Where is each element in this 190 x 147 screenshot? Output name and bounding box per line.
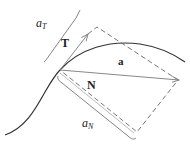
normal-component-bracket-inner [60,73,134,133]
normal-vector-label: N [87,79,96,91]
tangential-component-label: aT [36,17,46,31]
tangent-vector-label: T [61,37,69,49]
acceleration-vector-label: a [118,56,124,67]
acceleration-decomposition-diagram: aT T a N aN [0,0,190,147]
normal-component-bracket [58,76,136,139]
acceleration-vector-arrow [60,70,179,80]
normal-component-label: aN [82,117,93,131]
diagram-canvas [0,0,190,147]
